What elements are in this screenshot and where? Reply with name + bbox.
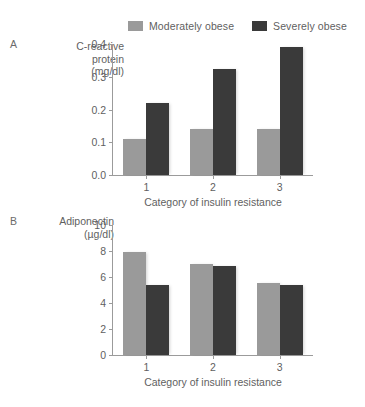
panel-a-y-tick-label: 0.1: [91, 136, 106, 148]
panel-b-bar-severe-2: [213, 266, 236, 355]
legend-item-severe: Severely obese: [252, 20, 347, 32]
legend-item-moderate: Moderately obese: [128, 20, 234, 32]
panel-b-x-tick-label-3: 3: [277, 361, 283, 373]
panel-b-x-axis-title: Category of insulin resistance: [113, 376, 313, 388]
panel-a-bar-group-1: [113, 44, 180, 175]
panel-b-bar-group-1: [113, 225, 180, 355]
panel-a-x-tick-label-2: 2: [210, 181, 216, 193]
panel-b-x-tick: [213, 355, 214, 359]
panel-b-bar-group-2: [180, 225, 247, 355]
panel-a-bar-group-2: [180, 44, 247, 175]
panel-a-x-axis-title: Category of insulin resistance: [113, 196, 313, 208]
legend-swatch-moderate-icon: [128, 21, 143, 31]
panel-a-bar-severe-2: [213, 69, 236, 175]
panel-a-x-tick-label-3: 3: [277, 181, 283, 193]
legend-swatch-severe-icon: [252, 21, 267, 31]
panel-b-y-tick-label: 10: [94, 219, 106, 231]
panel-a-plot-area: Category of insulin resistance 0.00.10.2…: [112, 44, 313, 176]
panel-a-x-tick: [213, 175, 214, 179]
legend-label-moderate: Moderately obese: [149, 20, 234, 32]
panel-a-y-axis-title-line2: protein: [32, 53, 124, 66]
chart-legend: Moderately obeseSeverely obese: [128, 20, 347, 32]
panel-a-y-axis-title-line1: C-reactive: [32, 40, 124, 53]
panel-a-bar-moderate-2: [190, 129, 213, 175]
panel-a-y-tick-label: 0.2: [91, 104, 106, 116]
panel-a-y-axis-title-line3: (mg/dl): [32, 65, 124, 78]
panel-b-bars: [113, 225, 313, 355]
panel-b-bar-moderate-3: [257, 283, 280, 355]
legend-label-severe: Severely obese: [273, 20, 347, 32]
panel-b-y-tick: [109, 303, 113, 304]
panel-a-y-tick-label: 0.0: [91, 169, 106, 181]
panel-a-bar-moderate-3: [257, 129, 280, 175]
panel-a-y-tick: [109, 110, 113, 111]
panel-b-bar-severe-3: [280, 285, 303, 355]
panel-b-x-tick-label-1: 1: [143, 361, 149, 373]
panel-a-y-tick: [109, 175, 113, 176]
panel-b-x-tick: [280, 355, 281, 359]
panel-a-y-tick: [109, 44, 113, 45]
panel-a-bars: [113, 44, 313, 175]
panel-a-y-tick-label: 0.3: [91, 71, 106, 83]
panel-b-bar-moderate-1: [123, 252, 146, 355]
panel-a-bar-severe-3: [280, 47, 303, 175]
panel-b-y-tick: [109, 277, 113, 278]
panel-b-y-tick-label: 4: [100, 297, 106, 309]
panel-b-y-tick: [109, 355, 113, 356]
panel-b-bar-severe-1: [146, 285, 169, 355]
panel-b-bar-moderate-2: [190, 264, 213, 355]
figure: Moderately obeseSeverely obese A C-react…: [0, 0, 365, 407]
panel-a-bar-severe-1: [146, 103, 169, 175]
panel-b-y-tick: [109, 225, 113, 226]
panel-a-letter: A: [10, 38, 17, 50]
panel-a-x-tick-label-1: 1: [143, 181, 149, 193]
panel-b-y-tick: [109, 251, 113, 252]
panel-a-bar-group-3: [246, 44, 313, 175]
panel-a-x-tick: [146, 175, 147, 179]
panel-b-y-tick-label: 2: [100, 323, 106, 335]
panel-a-y-tick: [109, 77, 113, 78]
panel-b-y-tick: [109, 329, 113, 330]
panel-b-x-tick: [146, 355, 147, 359]
panel-b-y-tick-label: 8: [100, 245, 106, 257]
panel-a-bar-moderate-1: [123, 139, 146, 175]
panel-b-letter: B: [10, 215, 17, 227]
panel-b-plot-area: Category of insulin resistance 024681012…: [112, 225, 313, 356]
panel-a-y-tick: [109, 142, 113, 143]
panel-b: B Adiponectin (µg/dl) Category of insuli…: [0, 215, 365, 387]
panel-b-bar-group-3: [246, 225, 313, 355]
panel-b-x-tick-label-2: 2: [210, 361, 216, 373]
panel-a-y-tick-label: 0.4: [91, 38, 106, 50]
panel-b-y-tick-label: 0: [100, 349, 106, 361]
panel-b-y-tick-label: 6: [100, 271, 106, 283]
panel-a: A C-reactive protein (mg/dl) Category of…: [0, 38, 365, 208]
panel-a-y-axis-title: C-reactive protein (mg/dl): [32, 40, 124, 78]
panel-a-x-tick: [280, 175, 281, 179]
